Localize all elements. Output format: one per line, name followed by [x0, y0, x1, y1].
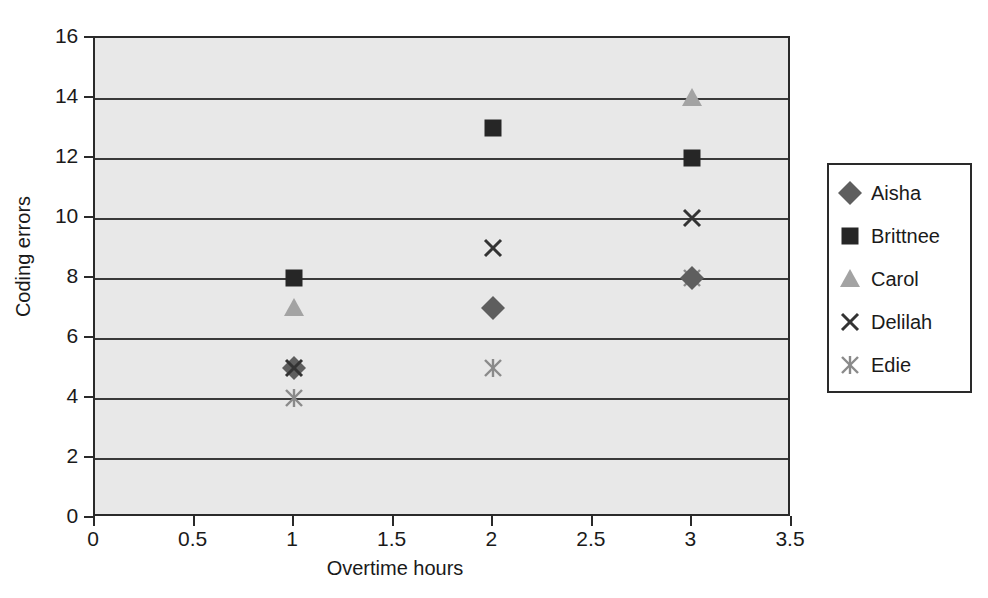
y-tick-label: 4	[38, 385, 78, 406]
legend-label: Carol	[871, 269, 919, 289]
x-tick-label: 1	[262, 528, 322, 550]
y-tick-label: 16	[38, 25, 78, 46]
data-point-delilah	[681, 207, 703, 229]
y-tick-label: 12	[38, 145, 78, 166]
y-tick-mark	[84, 516, 93, 518]
y-tick-mark	[84, 336, 93, 338]
data-point-brittnee	[485, 120, 502, 137]
y-tick-mark	[84, 396, 93, 398]
gridline	[95, 338, 788, 340]
legend-swatch	[829, 216, 871, 256]
y-tick-mark	[84, 456, 93, 458]
data-point-edie	[283, 387, 305, 409]
x-tick-mark	[193, 516, 195, 526]
x-tick-label: 3	[660, 528, 720, 550]
data-point-carol	[682, 88, 702, 106]
data-point-brittnee	[684, 150, 701, 167]
x-tick-label: 2	[461, 528, 521, 550]
triangle-marker-icon	[840, 269, 860, 287]
x-tick-mark	[690, 516, 692, 526]
x-marker-icon	[839, 311, 861, 333]
legend-label: Aisha	[871, 183, 921, 203]
x-tick-mark	[790, 516, 792, 526]
legend-item-aisha[interactable]: Aisha	[829, 173, 970, 213]
y-tick-mark	[84, 96, 93, 98]
x-tick-label: 2.5	[561, 528, 621, 550]
x-tick-mark	[591, 516, 593, 526]
y-tick-label: 2	[38, 445, 78, 466]
legend-label: Delilah	[871, 312, 932, 332]
legend-item-carol[interactable]: Carol	[829, 259, 970, 299]
x-tick-label: 0	[63, 528, 123, 550]
legend-label: Edie	[871, 355, 911, 375]
y-tick-mark	[84, 156, 93, 158]
legend-item-brittnee[interactable]: Brittnee	[829, 216, 970, 256]
legend-item-delilah[interactable]: Delilah	[829, 302, 970, 342]
legend-swatch	[829, 345, 871, 385]
legend-label: Brittnee	[871, 226, 940, 246]
y-tick-label-wrap: 6	[0, 325, 78, 346]
x-tick-label: 0.5	[163, 528, 223, 550]
legend-item-edie[interactable]: Edie	[829, 345, 970, 385]
y-tick-label: 14	[38, 85, 78, 106]
y-tick-mark	[84, 276, 93, 278]
square-marker-icon	[842, 228, 859, 245]
y-tick-label: 0	[38, 505, 78, 526]
data-point-edie	[482, 357, 504, 379]
figure-caption	[22, 585, 962, 598]
legend: AishaBrittneeCarolDelilahEdie	[827, 163, 972, 393]
data-point-carol	[284, 298, 304, 316]
legend-swatch	[829, 259, 871, 299]
gridline	[95, 458, 788, 460]
y-tick-mark	[84, 36, 93, 38]
legend-swatch	[829, 173, 871, 213]
y-tick-label-wrap: 14	[0, 85, 78, 106]
x-axis-label: Overtime hours	[0, 557, 790, 580]
plot-area	[93, 36, 790, 516]
x-tick-mark	[392, 516, 394, 526]
data-point-delilah	[283, 357, 305, 379]
asterisk-marker-icon	[839, 354, 861, 376]
y-tick-label-wrap: 16	[0, 25, 78, 46]
figure-top-title-sliver	[200, 0, 720, 1]
data-point-aisha	[481, 296, 505, 320]
y-tick-label-wrap: 0	[0, 505, 78, 526]
y-tick-label: 8	[38, 265, 78, 286]
y-tick-label-wrap: 8	[0, 265, 78, 286]
x-tick-mark	[491, 516, 493, 526]
y-tick-label: 10	[38, 205, 78, 226]
x-tick-label: 1.5	[362, 528, 422, 550]
y-tick-label-wrap: 4	[0, 385, 78, 406]
y-tick-mark	[84, 216, 93, 218]
gridline	[95, 398, 788, 400]
figure: Coding errors 0246810121416 00.511.522.5…	[0, 0, 988, 598]
y-tick-label: 6	[38, 325, 78, 346]
legend-swatch	[829, 302, 871, 342]
x-tick-mark	[292, 516, 294, 526]
y-tick-label-wrap: 12	[0, 145, 78, 166]
y-tick-label-wrap: 10	[0, 205, 78, 226]
data-point-delilah	[482, 237, 504, 259]
x-tick-mark	[93, 516, 95, 526]
diamond-marker-icon	[838, 181, 862, 205]
y-tick-label-wrap: 2	[0, 445, 78, 466]
data-point-brittnee	[286, 270, 303, 287]
x-tick-label: 3.5	[760, 528, 820, 550]
